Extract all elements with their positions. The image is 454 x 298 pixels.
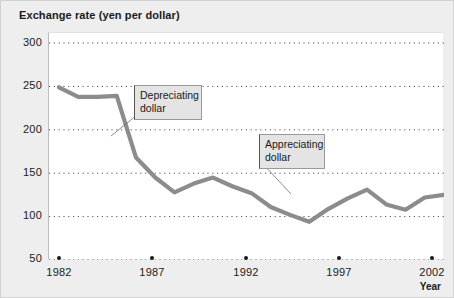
x-tick-dot-2002	[430, 256, 434, 260]
y-tick-label-250: 250	[6, 79, 42, 91]
x-tick-label-1992: 1992	[221, 266, 271, 278]
x-tick-dot-1982	[57, 256, 61, 260]
chart-figure: Exchange rate (yen per dollar) 300 250 2…	[0, 0, 454, 298]
annotation-depreciating-dollar: Depreciating dollar	[134, 85, 202, 120]
y-tick-label-200: 200	[6, 123, 42, 135]
x-tick-label-2002: 2002	[407, 266, 454, 278]
y-tick-label-100: 100	[6, 209, 42, 221]
x-tick-label-1987: 1987	[127, 266, 177, 278]
gridlines	[49, 43, 444, 260]
x-axis-title: Year	[420, 281, 441, 292]
y-tick-label-50: 50	[6, 252, 42, 264]
plot-svg	[49, 33, 444, 260]
plot-area	[48, 32, 443, 259]
y-tick-label-150: 150	[6, 166, 42, 178]
data-series-line	[59, 87, 444, 222]
x-tick-label-1982: 1982	[34, 266, 84, 278]
annotation-appreciating-dollar: Appreciating dollar	[259, 134, 325, 169]
y-tick-label-300: 300	[6, 36, 42, 48]
x-tick-dot-1997	[337, 256, 341, 260]
x-tick-dot-1992	[244, 256, 248, 260]
chart-title: Exchange rate (yen per dollar)	[19, 9, 180, 21]
x-tick-dot-1987	[150, 256, 154, 260]
x-tick-label-1997: 1997	[314, 266, 364, 278]
